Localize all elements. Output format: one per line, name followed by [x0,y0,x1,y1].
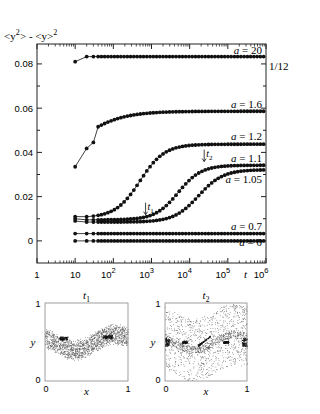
data-point [112,232,116,236]
inset-point [205,346,206,347]
inset-point [198,363,199,364]
data-point [229,142,233,146]
data-point [73,239,77,243]
data-point [174,232,178,236]
inset-point [223,335,224,336]
inset-point [100,344,101,345]
inset-point [117,336,118,337]
inset-point [184,378,185,379]
inset-point [80,339,81,340]
inset-point [172,318,173,319]
inset-point [85,348,86,349]
inset-point [168,317,169,318]
inset-point [213,363,214,364]
inset-point [49,332,50,333]
inset-point [196,379,197,380]
inset-point [236,330,237,331]
inset-point [239,317,240,318]
inset-point [195,352,196,353]
inset-point [85,343,86,344]
data-point [73,219,77,223]
inset-point [80,346,81,347]
inset-point [83,341,84,342]
inset-point [204,339,205,340]
inset-point [125,341,126,342]
inset-point [239,332,240,333]
inset-point [225,361,226,362]
inset-point [183,319,184,320]
data-point [207,109,211,113]
inset-point [223,313,224,314]
data-point [73,232,77,236]
data-point [255,168,259,172]
inset-point [226,305,227,306]
inset-point [119,340,120,341]
inset-point [178,326,179,327]
inset-point [85,357,86,358]
inset-point [77,340,78,341]
inset-point [223,341,224,342]
inset-point [211,338,212,339]
inset-point [223,321,224,322]
inset-point [69,358,70,359]
inset-point [243,355,244,356]
inset-point [115,327,116,328]
inset-point [73,348,74,349]
inset-point [104,341,105,342]
inset-point [243,314,244,315]
inset-point [245,359,246,360]
data-point [119,220,123,224]
inset-point [202,346,203,347]
inset-point [66,350,67,351]
inset-cluster-point [64,337,65,338]
inset-point [91,335,92,336]
inset-point [230,337,231,338]
inset-point [178,339,179,340]
inset-point [197,351,198,352]
inset-point [47,348,48,349]
inset-point [228,318,229,319]
inset-point [211,343,212,344]
inset-point [197,376,198,377]
inset-point [182,347,183,348]
inset-point [201,333,202,334]
inset-point [224,306,225,307]
inset-point [210,341,211,342]
inset-point [241,333,242,334]
inset-point [229,332,230,333]
inset-point [122,327,123,328]
inset-point [188,343,189,344]
inset-point [239,338,240,339]
inset-point [228,308,229,309]
inset-point [109,340,110,341]
inset-point [96,339,97,340]
inset-point [116,329,117,330]
inset-point [187,352,188,353]
inset-point [107,330,108,331]
inset-point [242,318,243,319]
inset-point [92,349,93,350]
data-point [135,216,139,220]
inset-point [83,347,84,348]
series-label: a = 1.05 [226,173,263,185]
data-point [164,217,168,221]
inset-point [244,337,245,338]
inset-point [222,325,223,326]
inset-point [177,348,178,349]
inset-point [226,308,227,309]
inset-point [54,341,55,342]
data-point [151,111,155,115]
inset-point [239,317,240,318]
inset-point [222,350,223,351]
inset-point [122,340,123,341]
inset-point [70,340,71,341]
inset-point [83,348,84,349]
inset-point [203,319,204,320]
inset-point [96,346,97,347]
inset-point [89,339,90,340]
inset-point [54,344,55,345]
inset-point [90,340,91,341]
data-point [109,209,113,213]
inset-point [170,353,171,354]
inset-point [202,331,203,332]
